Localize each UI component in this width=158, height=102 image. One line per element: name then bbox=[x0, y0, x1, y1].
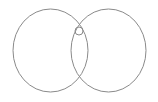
right-circle bbox=[71, 9, 146, 92]
left-circle bbox=[13, 9, 88, 92]
venn-diagram bbox=[0, 0, 158, 102]
small-circle bbox=[75, 27, 83, 35]
